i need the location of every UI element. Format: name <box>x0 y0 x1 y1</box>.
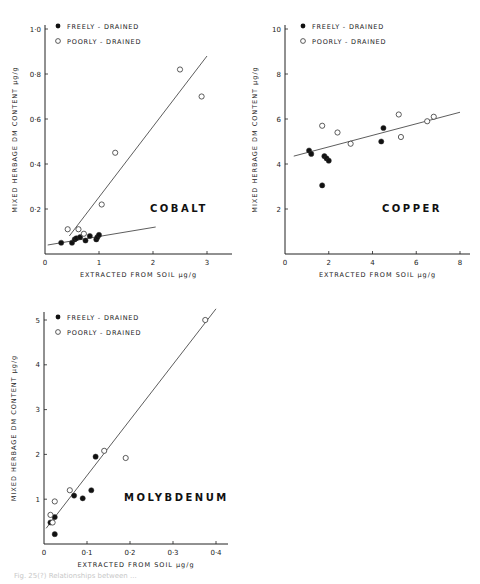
poorly-drained-point <box>67 488 72 493</box>
y-tick-label: 4 <box>277 161 282 169</box>
x-tick-label: 0·1 <box>81 549 92 557</box>
y-tick-label: 2 <box>277 206 281 214</box>
x-tick-label: 0·2 <box>124 549 135 557</box>
poorly-drained-point <box>348 141 353 146</box>
freely-drained-point <box>89 488 94 493</box>
y-tick-label: 1·0 <box>30 26 41 34</box>
poorly-drained-point <box>203 317 208 322</box>
poorly-drained-point <box>123 455 128 460</box>
y-tick-label: 0·8 <box>30 71 41 79</box>
freely-drained-point <box>309 151 314 156</box>
figure: 01230·20·40·60·81·0EXTRACTED FROM SOIL µ… <box>0 0 480 584</box>
legend-poorly-drained: POORLY - DRAINED <box>67 329 141 337</box>
freely-drained-point <box>83 238 88 243</box>
y-tick-label: 3 <box>36 406 40 414</box>
legend-freely-drained: FREELY - DRAINED <box>312 23 384 31</box>
poorly-drained-point <box>52 499 57 504</box>
x-tick-label: 0·4 <box>210 549 222 557</box>
x-axis-label: EXTRACTED FROM SOIL µg/g <box>80 271 197 279</box>
freely-drained-point <box>379 139 384 144</box>
poorly-drained-point <box>320 123 325 128</box>
y-tick-label: 0·4 <box>30 161 42 169</box>
y-tick-label: 8 <box>277 71 281 79</box>
x-axis-label: EXTRACTED FROM SOIL µg/g <box>319 271 436 279</box>
freely-drained-point <box>72 493 77 498</box>
freely-drained-point <box>96 232 101 237</box>
chart-title: COPPER <box>382 203 442 214</box>
figure-caption: Fig. 25(?) Relationships between ... <box>14 572 137 580</box>
x-tick-label: 0·3 <box>167 549 178 557</box>
poorly-drained-point <box>76 227 81 232</box>
freely-drained-point <box>59 240 64 245</box>
freely-drained-point <box>87 233 92 238</box>
freely-drained-point <box>52 532 57 537</box>
x-tick-label: 2 <box>151 259 155 267</box>
y-tick-label: 5 <box>36 317 40 325</box>
legend-filled-marker <box>301 24 306 29</box>
y-axis-label: MIXED HERBAGE DM CONTENT µg/g <box>251 66 259 212</box>
y-tick-label: 0·6 <box>30 116 42 124</box>
y-axis-label: MIXED HERBAGE DM CONTENT µg/g <box>10 355 18 501</box>
poorly-drained-point <box>50 520 55 525</box>
poorly-drained-point <box>335 130 340 135</box>
x-tick-label: 0 <box>283 259 287 267</box>
poorly-drained-point <box>398 134 403 139</box>
legend-filled-marker <box>56 315 61 320</box>
chart-title: COBALT <box>150 203 208 214</box>
legend-freely-drained: FREELY - DRAINED <box>67 23 139 31</box>
y-tick-label: 2 <box>36 451 40 459</box>
freely-drained-point <box>381 125 386 130</box>
freely-drained-point <box>93 454 98 459</box>
poorly-drained-point <box>431 114 436 119</box>
y-tick-label: 0·2 <box>30 206 41 214</box>
poorly-drained-point <box>113 150 118 155</box>
poorly-drained-point <box>99 202 104 207</box>
x-tick-label: 0 <box>42 549 46 557</box>
chart-title: MOLYBDENUM <box>124 492 229 503</box>
freely-drained-point <box>320 183 325 188</box>
x-tick-label: 3 <box>205 259 209 267</box>
chart-molybdenum: 00·10·20·30·412345EXTRACTED FROM SOIL µg… <box>10 309 229 569</box>
x-tick-label: 2 <box>327 259 331 267</box>
x-tick-label: 6 <box>414 259 419 267</box>
legend-open-marker <box>56 330 61 335</box>
legend-open-marker <box>301 39 306 44</box>
poorly-drained-point <box>102 448 107 453</box>
chart-copper: 02468246810EXTRACTED FROM SOIL µg/gMIXED… <box>251 23 470 280</box>
y-tick-label: 6 <box>277 116 282 124</box>
x-tick-label: 0 <box>43 259 47 267</box>
legend-freely-drained: FREELY - DRAINED <box>67 314 139 322</box>
x-tick-label: 4 <box>370 259 375 267</box>
x-axis-label: EXTRACTED FROM SOIL µg/g <box>77 561 194 569</box>
x-tick-label: 1 <box>97 259 101 267</box>
legend-filled-marker <box>56 24 61 29</box>
chart-cobalt: 01230·20·40·60·81·0EXTRACTED FROM SOIL µ… <box>11 23 232 280</box>
legend-open-marker <box>56 39 61 44</box>
poorly-drained-point <box>65 227 70 232</box>
poorly-drained-point <box>48 512 53 517</box>
poorly-drained-point <box>81 231 86 236</box>
x-tick-label: 8 <box>458 259 462 267</box>
poorly-drained-point <box>396 112 401 117</box>
y-tick-label: 10 <box>272 26 281 34</box>
y-axis-label: MIXED HERBAGE DM CONTENT µg/g <box>11 66 19 212</box>
y-tick-label: 4 <box>36 361 41 369</box>
freely-drained-point <box>80 496 85 501</box>
freely-drained-point <box>326 158 331 163</box>
legend-poorly-drained: POORLY - DRAINED <box>67 38 141 46</box>
poorly-drained-point <box>425 119 430 124</box>
poorly-drained-point <box>199 94 204 99</box>
y-tick-label: 1 <box>36 496 40 504</box>
legend-poorly-drained: POORLY - DRAINED <box>312 38 386 46</box>
poorly-drained-point <box>177 67 182 72</box>
